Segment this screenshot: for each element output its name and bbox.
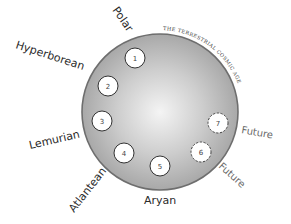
epoch-5: 5 [150,156,170,176]
epoch-7: 7 [208,113,228,133]
label-future-6: Future [217,160,248,189]
epoch-number: 5 [158,163,162,171]
label-polar: Polar [110,4,137,34]
label-future-7: Future [241,124,274,140]
epoch-number: 3 [100,118,104,126]
epoch-number: 2 [106,83,110,91]
label-lemurian: Lemurian [28,128,81,152]
epoch-1: 1 [125,48,145,68]
diagram-canvas: THE TERRESTRIAL COSMIC AGE 1 2 3 4 5 6 [0,0,291,224]
epoch-number: 6 [199,149,204,157]
label-aryan: Aryan [144,194,176,207]
epoch-number: 1 [133,55,137,63]
terrestrial-cosmic-age-diagram: THE TERRESTRIAL COSMIC AGE 1 2 3 4 5 6 [0,0,291,224]
epoch-2: 2 [98,76,118,96]
label-hyperborean: Hyperborean [14,38,86,72]
epoch-number: 7 [216,120,220,128]
epoch-4: 4 [114,143,134,163]
epoch-number: 4 [122,150,127,158]
epoch-3: 3 [92,111,112,131]
epoch-6: 6 [191,142,211,162]
label-atlantean: Atlantean [66,165,109,215]
